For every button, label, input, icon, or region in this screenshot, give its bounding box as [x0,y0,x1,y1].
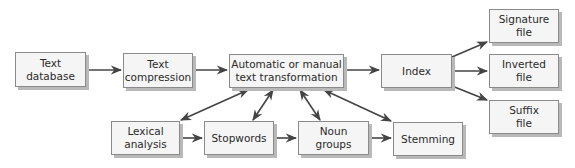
arrow-transformation-lexical [181,90,248,120]
node-index: Index [381,54,452,88]
arrow-index-to-signature [452,42,487,57]
node-text-transformation: Automatic or manual text transformation [229,54,344,88]
node-stemming: Stemming [393,122,463,156]
node-signature-file: Signature file [489,9,559,43]
arrow-transformation-noun [300,90,320,120]
arrow-transformation-stemming [324,90,391,121]
arrow-transformation-stopwords [253,90,273,120]
arrow-index-to-suffix [452,86,487,100]
node-text-database: Text database [15,52,86,87]
node-lexical-analysis: Lexical analysis [111,121,180,155]
node-noun-groups: Noun groups [298,121,369,155]
node-text-compression: Text compression [123,53,193,88]
node-suffix-file: Suffix file [489,100,559,134]
pipeline-diagram: Text database Text compression Automatic… [0,0,575,168]
node-stopwords: Stopwords [204,121,274,155]
node-inverted-file: Inverted file [489,54,559,88]
